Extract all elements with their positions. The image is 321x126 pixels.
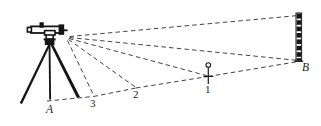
staff-graduation xyxy=(297,46,301,51)
ground-segment-2-1 xyxy=(136,77,208,89)
ground-traverse-line-group xyxy=(47,62,299,102)
telescope-eyepiece xyxy=(27,27,31,32)
label-station-b: B xyxy=(302,62,309,74)
label-point-3: 3 xyxy=(90,98,96,109)
ground-segment-a-3 xyxy=(47,97,94,102)
label-station-a: A xyxy=(46,104,53,116)
label-point-2: 2 xyxy=(133,89,139,100)
staff-graduation xyxy=(297,20,301,25)
sight-line-to-b xyxy=(70,38,299,61)
surveying-level-diagram: A 3 2 1 B xyxy=(0,0,321,126)
sight-line-to-3 xyxy=(68,41,94,96)
instrument-base-nub xyxy=(47,39,52,41)
label-point-1: 1 xyxy=(205,84,211,95)
ground-segment-1-b xyxy=(208,62,299,77)
level-instrument xyxy=(27,23,67,41)
tripod-leg-right xyxy=(50,45,80,99)
tripod-leg-center xyxy=(49,45,52,100)
staff-graduation xyxy=(297,27,301,32)
staff-graduation xyxy=(297,33,301,38)
ground-segment-3-2 xyxy=(94,88,137,97)
staff-graduation xyxy=(297,14,301,19)
staff-graduation xyxy=(297,58,301,60)
telescope-objective-collar xyxy=(59,25,63,34)
tripod-head xyxy=(45,40,55,45)
staff-graduation xyxy=(297,52,301,57)
staff-graduation xyxy=(297,39,301,44)
sight-lines-group xyxy=(68,16,299,96)
sight-line-to-staff-top xyxy=(70,16,299,37)
survey-peg-head xyxy=(206,63,211,68)
tripod-leg-left xyxy=(20,45,51,105)
instrument-saddle xyxy=(45,31,55,35)
leveling-staff xyxy=(294,13,303,61)
instrument-tangent-screw xyxy=(63,29,67,31)
instrument-sight-vane xyxy=(40,23,43,27)
survey-peg xyxy=(203,63,213,84)
